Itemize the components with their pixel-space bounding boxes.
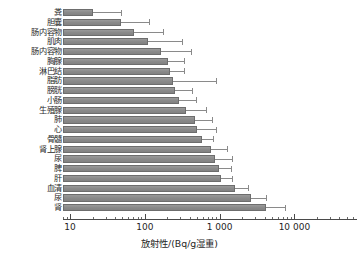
error-bar (235, 188, 248, 189)
bar-row (63, 145, 357, 155)
x-tick-minor (212, 217, 213, 220)
bar-row (63, 154, 357, 164)
x-axis-line (63, 219, 357, 220)
x-tick-label: 10 (64, 222, 75, 232)
bar-row (63, 184, 357, 194)
error-bar (221, 178, 231, 179)
x-tick-minor (317, 217, 318, 220)
bar-row (63, 164, 357, 174)
error-bar (168, 61, 183, 62)
x-tick-major (70, 214, 71, 219)
error-bar (175, 90, 193, 91)
bar (63, 165, 219, 172)
error-bar (170, 71, 184, 72)
x-tick-label: 100 (136, 222, 153, 232)
bar (63, 204, 266, 211)
error-bar-cap (232, 176, 233, 182)
x-tick-minor (272, 217, 273, 220)
x-tick-minor (291, 217, 292, 220)
error-bar-cap (266, 195, 267, 201)
x-tick-minor (197, 217, 198, 220)
error-bar (211, 149, 227, 150)
bar (63, 68, 170, 75)
error-bar (202, 139, 213, 140)
bar (63, 29, 134, 36)
x-tick-minor (283, 217, 284, 220)
error-bar-cap (212, 117, 213, 123)
x-tick-minor (180, 217, 181, 220)
error-bar (197, 129, 216, 130)
error-bar-cap (231, 166, 232, 172)
error-bar-cap (196, 97, 197, 103)
bar (63, 175, 221, 182)
bar-row (63, 115, 357, 125)
x-tick-minor (106, 217, 107, 220)
error-bar-cap (227, 146, 228, 152)
bar-row (63, 193, 357, 203)
error-bar-cap (216, 127, 217, 133)
plot-area (63, 8, 357, 213)
bar-row (63, 76, 357, 86)
error-bar (148, 41, 182, 42)
error-bar-cap (149, 19, 150, 25)
category-label-column: 粪胆囊肠内容物肌肉肠内容物胸腺淋巴结脂肪膀胱小肠生殖腺肺心骨髓肾上腺尿脾肝血清尿… (0, 8, 63, 213)
x-tick-minor (242, 217, 243, 220)
error-bar (215, 159, 231, 160)
x-tick-minor (203, 217, 204, 220)
error-bar-cap (216, 78, 217, 84)
category-label: 肾 (54, 203, 62, 213)
bar-row (63, 203, 357, 213)
error-bar-cap (232, 156, 233, 162)
x-tick-major (145, 214, 146, 219)
x-tick-minor (138, 217, 139, 220)
error-bar (161, 51, 191, 52)
x-tick-minor (216, 217, 217, 220)
x-tick-minor (67, 217, 68, 220)
error-bar-cap (184, 68, 185, 74)
bar (63, 19, 121, 26)
error-bar (266, 207, 285, 208)
bar-row (63, 106, 357, 116)
error-bar-cap (163, 29, 164, 35)
bar (63, 185, 235, 192)
x-tick-major (294, 214, 295, 219)
x-tick-minor (122, 217, 123, 220)
bar (63, 136, 202, 143)
bar-row (63, 96, 357, 106)
x-tick-minor (115, 217, 116, 220)
error-bar (251, 198, 267, 199)
x-tick-major (220, 214, 221, 219)
error-bar-cap (121, 10, 122, 16)
bar (63, 126, 197, 133)
error-bar (134, 32, 163, 33)
x-tick-minor (287, 217, 288, 220)
x-tick-minor (128, 217, 129, 220)
bar (63, 97, 179, 104)
error-bar-cap (285, 205, 286, 211)
bar-row (63, 57, 357, 67)
error-bar (219, 168, 231, 169)
bar (63, 77, 173, 84)
error-bar-cap (192, 88, 193, 94)
error-bar-cap (184, 58, 185, 64)
x-axis-title: 放射性/(Bq/g湿重) (0, 236, 359, 250)
x-tick-minor (278, 217, 279, 220)
x-tick-minor (133, 217, 134, 220)
error-bar-cap (191, 49, 192, 55)
x-tick-label: 1 000 (207, 222, 233, 232)
error-bar (195, 120, 211, 121)
bar (63, 48, 161, 55)
error-bar-cap (248, 185, 249, 191)
x-tick-minor (347, 217, 348, 220)
error-bar-cap (182, 39, 183, 45)
error-bar (186, 110, 205, 111)
x-tick-minor (265, 217, 266, 220)
bar (63, 146, 211, 153)
bar-row (63, 37, 357, 47)
x-tick-minor (141, 217, 142, 220)
bar (63, 87, 175, 94)
bar-row (63, 18, 357, 28)
error-bar-cap (213, 136, 214, 142)
bar (63, 107, 186, 114)
bar-row (63, 86, 357, 96)
